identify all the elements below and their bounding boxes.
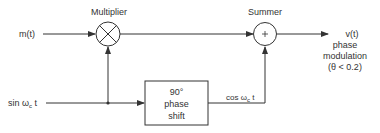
phase-shift-line1: 90° [145, 86, 208, 98]
carrier-text: sin ω [8, 98, 29, 108]
output-line2: phase [313, 40, 377, 51]
phase-shift-text: 90° phase shift [145, 86, 208, 122]
output-line1: v(t) [313, 29, 377, 40]
cos-subscript: c [247, 97, 250, 103]
carrier-input-label: sin ωc t [8, 98, 37, 111]
output-line3: modulation [313, 51, 377, 62]
cos-label: cos ωc t [226, 93, 254, 105]
multiplier-label: Multiplier [84, 7, 134, 17]
summer-label: Summer [240, 7, 290, 17]
carrier-subscript: c [29, 103, 32, 109]
summer-icon [254, 23, 277, 46]
output-label: v(t) phase modulation (θ < 0.2) [313, 29, 377, 73]
cos-text: cos ω [226, 93, 247, 102]
output-line4: (θ < 0.2) [313, 62, 377, 73]
phase-shift-line3: shift [145, 110, 208, 122]
carrier-t: t [35, 98, 38, 108]
multiplier-icon [96, 22, 120, 46]
cos-t: t [252, 93, 254, 102]
phase-shift-line2: phase [145, 98, 208, 110]
message-input-label: m(t) [19, 29, 35, 39]
